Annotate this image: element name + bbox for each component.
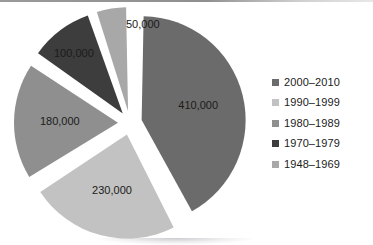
legend-swatch-icon bbox=[272, 120, 279, 127]
legend-item-label: 1948–1969 bbox=[284, 159, 340, 170]
legend-item-2000-2010[interactable]: 2000–2010 bbox=[272, 72, 370, 93]
legend-item-1980-1989[interactable]: 1980–1989 bbox=[272, 113, 370, 134]
legend-item-1990-1999[interactable]: 1990–1999 bbox=[272, 93, 370, 114]
pie-slice[interactable] bbox=[142, 16, 246, 211]
legend-item-label: 1980–1989 bbox=[284, 118, 340, 129]
chart-legend: 2000–2010 1990–1999 1980–1989 1970–1979 … bbox=[272, 72, 370, 175]
slice-data-label: 180,000 bbox=[40, 115, 80, 127]
legend-swatch-icon bbox=[272, 99, 279, 106]
pie-chart-figure: 410,000230,000180,000 50,000 100,000 200… bbox=[0, 2, 373, 244]
legend-item-label: 2000–2010 bbox=[284, 77, 340, 88]
legend-item-label: 1970–1979 bbox=[284, 138, 340, 149]
legend-item-label: 1990–1999 bbox=[284, 97, 340, 108]
legend-item-1970-1979[interactable]: 1970–1979 bbox=[272, 134, 370, 155]
pie-chart-svg: 410,000230,000180,000 bbox=[6, 2, 264, 244]
slice-data-label: 410,000 bbox=[178, 99, 218, 111]
slice-data-label: 230,000 bbox=[92, 184, 132, 196]
pie-plot-area: 410,000230,000180,000 50,000 100,000 bbox=[6, 2, 264, 244]
legend-swatch-icon bbox=[272, 161, 279, 168]
legend-item-1948-1969[interactable]: 1948–1969 bbox=[272, 154, 370, 175]
legend-swatch-icon bbox=[272, 79, 279, 86]
legend-swatch-icon bbox=[272, 140, 279, 147]
